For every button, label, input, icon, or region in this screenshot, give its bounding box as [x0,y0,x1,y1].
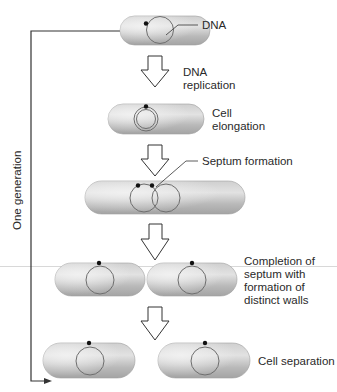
binary-fission-diagram: DNA DNA replication Cell elongation Sept… [0,0,337,392]
cell-stage-4-left [55,261,145,296]
down-arrow-icon [141,56,169,87]
dna-dot [87,341,91,345]
cell-stage-2 [108,104,204,134]
label-septum-formation: Septum formation [202,155,293,168]
dna-dot [150,183,154,187]
label-completion-line3: formation of [244,281,305,294]
label-one-generation: One generation [11,151,23,230]
label-dna-replication-line2: replication [183,79,235,92]
dna-dot [136,183,140,187]
dna-dot [190,261,194,265]
dna-dot [144,21,148,25]
bracket-arrowhead-icon [44,378,52,384]
cell-stage-1 [120,16,210,45]
dna-dot [203,341,207,345]
label-cell-separation: Cell separation [258,355,335,368]
label-dna-replication-line1: DNA [183,66,207,79]
label-dna: DNA [202,19,226,32]
down-arrow-icon [141,224,169,260]
label-cell-elongation-line1: Cell [212,107,232,120]
label-completion-line1: Completion of [244,255,315,268]
dna-dot [144,104,148,108]
label-cell-elongation-line2: elongation [212,120,265,133]
dna-dot [97,261,101,265]
down-arrow-icon [141,307,169,340]
cell-stage-4-right [147,261,237,296]
label-completion-line2: septum with [244,268,305,281]
down-arrow-icon [141,145,169,176]
cell-stage-5-right [158,341,250,378]
cell-stage-5-left [43,341,135,378]
diagram-graphics [0,0,337,392]
label-completion-line4: distinct walls [244,294,309,307]
cell-stage-3 [85,161,245,214]
